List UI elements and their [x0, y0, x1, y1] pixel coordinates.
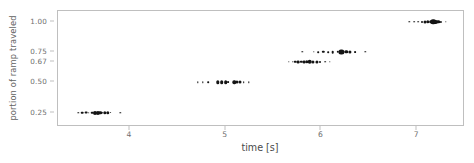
data-point	[318, 51, 320, 53]
data-point	[77, 112, 78, 113]
data-point	[413, 21, 415, 23]
data-point	[84, 111, 87, 114]
data-point	[292, 61, 294, 63]
data-point	[110, 112, 112, 114]
y-axis-ticks: 0.250.500.670.751.00	[0, 0, 57, 136]
y-tick-label: 0.25	[30, 107, 47, 116]
data-point	[88, 112, 90, 114]
data-point	[339, 49, 344, 54]
y-tick-label: 0.75	[30, 47, 47, 56]
data-point	[345, 50, 348, 53]
data-point	[445, 21, 446, 22]
y-tick-mark	[50, 111, 54, 112]
x-tick-label: 4	[126, 130, 131, 139]
data-point	[311, 60, 314, 63]
x-tick-mark	[320, 126, 321, 130]
x-tick-mark	[416, 126, 417, 130]
data-point	[324, 61, 326, 63]
data-point	[238, 81, 241, 84]
data-point	[313, 51, 314, 52]
data-point	[319, 61, 321, 63]
y-tick-label: 0.67	[30, 56, 47, 65]
figure: portion of ramp traveled 0.250.500.670.7…	[0, 0, 474, 163]
data-point	[354, 51, 356, 53]
data-point	[208, 81, 210, 83]
data-point	[329, 61, 330, 62]
data-point	[243, 81, 245, 83]
data-point	[120, 112, 121, 113]
data-point	[81, 111, 84, 114]
data-point	[301, 51, 302, 52]
data-point	[197, 82, 198, 83]
data-point	[440, 21, 442, 23]
y-tick-mark	[50, 81, 54, 82]
data-point	[409, 21, 410, 22]
data-point	[327, 51, 329, 53]
y-tick-mark	[50, 60, 54, 61]
data-point	[332, 51, 335, 54]
data-point	[288, 61, 289, 62]
data-point	[348, 50, 351, 53]
plot-area[interactable]	[57, 10, 464, 126]
x-tick-mark	[128, 126, 129, 130]
data-point	[315, 60, 318, 63]
data-point	[248, 82, 249, 83]
data-point	[417, 21, 419, 23]
data-point	[365, 51, 366, 52]
x-tick-label: 7	[414, 130, 419, 139]
x-tick-label: 6	[318, 130, 323, 139]
x-axis-title: time [s]	[241, 142, 278, 153]
data-point	[228, 81, 230, 83]
data-point	[322, 51, 324, 53]
y-tick-mark	[50, 51, 54, 52]
y-tick-label: 0.50	[30, 77, 47, 86]
x-tick-mark	[224, 126, 225, 130]
data-point	[202, 82, 203, 83]
y-tick-mark	[50, 20, 54, 21]
y-tick-label: 1.00	[30, 16, 47, 25]
x-tick-label: 5	[222, 130, 227, 139]
